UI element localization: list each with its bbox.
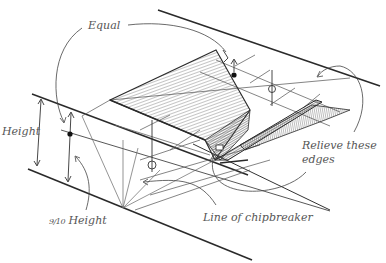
label-height: Height xyxy=(2,126,40,138)
diagram-canvas: Equal Height 9/10 Height Line of chipbre… xyxy=(0,0,386,263)
label-nine-tenths-height-text: Height xyxy=(68,214,106,227)
circle-marker-center xyxy=(148,120,156,172)
measure-point-left xyxy=(67,131,72,136)
fraction-nine-tenths: 9/10 xyxy=(49,217,65,226)
label-equal: Equal xyxy=(88,20,120,32)
measure-point-top xyxy=(231,72,236,77)
label-line-of-chipbreaker: Line of chipbreaker xyxy=(203,212,313,224)
label-edges: edges xyxy=(302,154,335,166)
label-nine-tenths-height: 9/10 Height xyxy=(49,215,107,228)
label-relieve-these: Relieve these xyxy=(302,140,377,152)
nine-tenths-height-dimension xyxy=(65,112,74,182)
leader-nine-tenths xyxy=(75,156,89,210)
